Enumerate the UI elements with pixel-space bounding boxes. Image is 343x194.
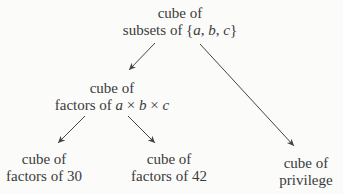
text-fragment: , bbox=[216, 22, 224, 38]
times-symbol: × bbox=[147, 97, 163, 113]
node-privilege-line1: cube of bbox=[279, 155, 332, 172]
node-factors-abc-line1: cube of bbox=[55, 80, 169, 97]
node-factors-abc: cube of factors of a × b × c bbox=[55, 80, 169, 114]
node-privilege-line2: privilege bbox=[279, 172, 332, 189]
times-symbol: × bbox=[123, 97, 139, 113]
var-c: c bbox=[163, 97, 170, 113]
var-b: b bbox=[208, 22, 216, 38]
text-fragment: subsets of { bbox=[123, 22, 194, 38]
node-factors-30-line2: factors of 30 bbox=[6, 168, 82, 185]
arrow-root-to-privilege bbox=[200, 44, 294, 146]
node-factors-42-line2: factors of 42 bbox=[131, 168, 207, 185]
node-subsets-abc-line2: subsets of {a, b, c} bbox=[123, 22, 237, 39]
node-subsets-abc: cube of subsets of {a, b, c} bbox=[123, 5, 237, 39]
node-factors-abc-line2: factors of a × b × c bbox=[55, 97, 169, 114]
arrow-factors-abc-to-30 bbox=[58, 116, 85, 143]
tree-diagram: cube of subsets of {a, b, c} cube of fac… bbox=[0, 0, 343, 194]
node-factors-30: cube of factors of 30 bbox=[6, 151, 82, 185]
text-fragment: factors of bbox=[55, 97, 116, 113]
arrow-factors-abc-to-42 bbox=[128, 116, 155, 143]
node-subsets-abc-line1: cube of bbox=[123, 5, 237, 22]
var-b: b bbox=[139, 97, 147, 113]
node-factors-30-line1: cube of bbox=[6, 151, 82, 168]
arrow-root-to-factors-abc bbox=[129, 43, 155, 70]
node-privilege: cube of privilege bbox=[279, 155, 332, 189]
text-fragment: , bbox=[201, 22, 209, 38]
var-a: a bbox=[193, 22, 201, 38]
node-factors-42-line1: cube of bbox=[131, 151, 207, 168]
text-fragment: } bbox=[230, 22, 237, 38]
node-factors-42: cube of factors of 42 bbox=[131, 151, 207, 185]
